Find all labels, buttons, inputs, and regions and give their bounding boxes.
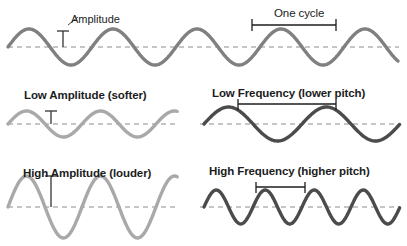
high-amplitude-label: High Amplitude (louder) (23, 168, 151, 180)
low-frequency-label: Low Frequency (lower pitch) (212, 88, 365, 100)
high-frequency-wave-path (204, 190, 400, 224)
sound-wave-diagram: Amplitude One cycle Low Amplitude (softe… (0, 0, 407, 246)
top-panel-group (8, 17, 399, 65)
amplitude-marker-high (45, 176, 57, 207)
one-cycle-bracket (252, 19, 336, 31)
high-frequency-label: High Frequency (higher pitch) (209, 166, 370, 178)
amplitude-label: Amplitude (71, 14, 120, 25)
low-amplitude-panel-group (8, 111, 178, 137)
high-frequency-panel-group (200, 182, 400, 224)
amplitude-marker-low (45, 111, 57, 124)
amplitude-marker-top (57, 31, 69, 47)
low-frequency-wave-path (204, 107, 400, 141)
wave-canvas (0, 0, 407, 246)
high-amplitude-panel-group (8, 176, 178, 238)
low-amplitude-label: Low Amplitude (softer) (24, 90, 147, 102)
low-frequency-panel-group (200, 99, 400, 141)
one-cycle-label: One cycle (274, 8, 324, 20)
